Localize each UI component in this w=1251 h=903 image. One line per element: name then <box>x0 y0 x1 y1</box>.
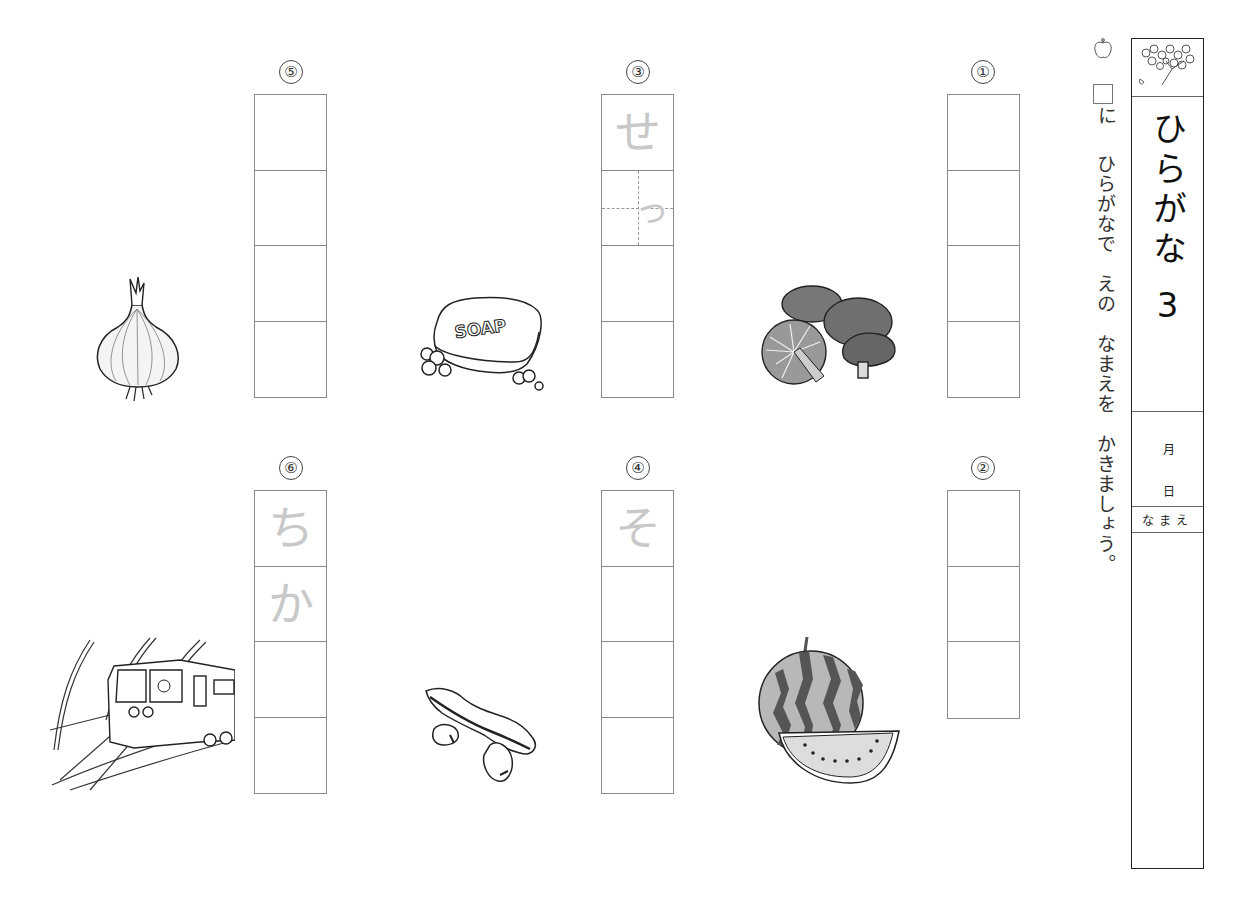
answer-column-3: せ っ <box>601 94 674 398</box>
answer-column-6: ち か <box>254 490 327 794</box>
apple-icon <box>1093 38 1113 60</box>
answer-box[interactable] <box>602 246 673 322</box>
mushrooms-picture <box>760 282 900 387</box>
answer-box[interactable] <box>602 642 673 718</box>
answer-box[interactable]: か <box>255 567 326 643</box>
cherry-blossom-icon <box>1132 39 1202 95</box>
date-area: 月 日 <box>1132 412 1203 507</box>
problem-number-2: ② <box>969 452 997 480</box>
trace-hint: っ <box>635 183 669 232</box>
answer-box[interactable] <box>948 567 1019 643</box>
problem-number-6: ⑥ <box>277 452 305 480</box>
onion-picture <box>90 275 185 403</box>
soap-picture: SOAP <box>415 292 550 392</box>
problem-number-5: ⑤ <box>277 56 305 84</box>
answer-box[interactable] <box>255 322 326 398</box>
watermelon-picture <box>755 633 905 793</box>
answer-box[interactable] <box>255 246 326 322</box>
broad-beans-picture <box>420 683 550 793</box>
answer-box-sample <box>1093 84 1113 104</box>
answer-box[interactable] <box>948 171 1019 247</box>
month-label: 月 <box>1163 440 1175 457</box>
answer-column-2 <box>947 490 1020 719</box>
name-label-row: なまえ <box>1132 507 1203 533</box>
title-panel: ひらがな 3 月 日 なまえ <box>1131 38 1204 869</box>
worksheet-number: 3 <box>1132 285 1203 325</box>
answer-box[interactable] <box>255 171 326 247</box>
trace-hint: そ <box>615 505 661 551</box>
answer-box[interactable] <box>948 246 1019 322</box>
answer-column-1 <box>947 94 1020 398</box>
answer-box[interactable] <box>602 718 673 794</box>
instruction-suffix: に <box>1093 106 1120 126</box>
name-label: なまえ <box>1142 511 1193 528</box>
trace-hint: せ <box>615 109 661 155</box>
subway-train-picture <box>50 630 235 795</box>
trace-hint: か <box>268 581 314 627</box>
day-label: 日 <box>1163 482 1175 499</box>
panel-header <box>1132 39 1203 97</box>
problem-number-4: ④ <box>624 452 652 480</box>
answer-box[interactable] <box>255 642 326 718</box>
panel-title-area: ひらがな 3 <box>1132 111 1203 412</box>
answer-box[interactable] <box>948 95 1019 171</box>
answer-box-small-tsu[interactable]: っ <box>602 171 673 247</box>
problem-number-3: ③ <box>624 56 652 84</box>
answer-box[interactable]: せ <box>602 95 673 171</box>
answer-column-5 <box>254 94 327 398</box>
answer-box[interactable] <box>602 322 673 398</box>
answer-box[interactable] <box>948 322 1019 398</box>
answer-column-4: そ <box>601 490 674 794</box>
problem-number-1: ① <box>969 56 997 84</box>
answer-box[interactable] <box>948 642 1019 718</box>
worksheet-title: ひらがな <box>1143 111 1192 271</box>
name-field[interactable] <box>1132 533 1203 882</box>
trace-hint: ち <box>268 505 314 551</box>
answer-box[interactable] <box>255 95 326 171</box>
answer-box[interactable]: そ <box>602 491 673 567</box>
answer-box[interactable] <box>602 567 673 643</box>
instruction-text: ひらがなで えの なまえを かきましょう。 <box>1092 154 1119 624</box>
answer-box[interactable] <box>255 718 326 794</box>
answer-box[interactable]: ち <box>255 491 326 567</box>
answer-box[interactable] <box>948 491 1019 567</box>
